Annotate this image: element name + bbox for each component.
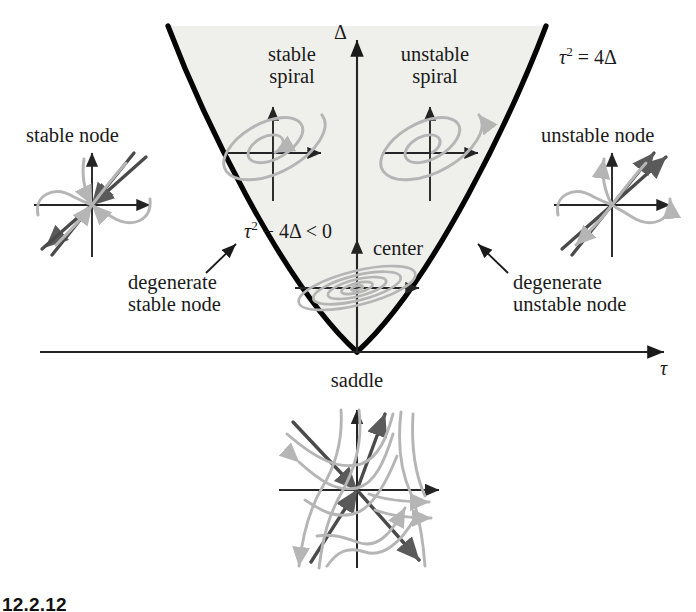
label-stable-spiral: stable spiral — [268, 44, 316, 87]
saddle-portrait — [279, 410, 439, 568]
label-curve-equation: τ2 = 4Δ — [559, 45, 617, 68]
label-degenerate-unstable-node: degenerate unstable node — [513, 272, 626, 315]
label-unstable-spiral: unstable spiral — [401, 44, 469, 87]
trace-determinant-diagram: stable spiral unstable spiral stable nod… — [0, 0, 696, 612]
label-stable-node: stable node — [26, 125, 119, 147]
unstable-node-portrait — [554, 153, 670, 257]
axis-label-delta: Δ — [334, 22, 347, 43]
label-unstable-node: unstable node — [541, 125, 654, 147]
label-saddle: saddle — [331, 370, 383, 392]
label-center: center — [373, 238, 423, 260]
label-degenerate-stable-node: degenerate stable node — [128, 272, 221, 315]
stable-node-portrait — [34, 153, 150, 257]
figure-caption: 12.2.12 — [2, 594, 67, 612]
axis-label-tau: τ — [660, 358, 667, 379]
label-region-inequality: τ2 − 4Δ < 0 — [244, 219, 332, 242]
